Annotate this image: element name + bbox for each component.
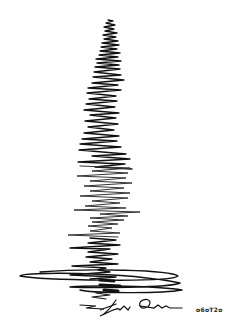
scribble-artwork: [0, 0, 239, 333]
scribble-top: [78, 20, 132, 169]
signature-date: o6oT2o: [196, 306, 223, 313]
scribble-middle: [68, 166, 140, 237]
signature: [80, 299, 182, 316]
